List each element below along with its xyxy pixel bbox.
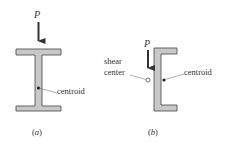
centroid-label-b: centroid [184, 67, 213, 77]
panel-label-b: (b) [148, 127, 158, 137]
centroid-dot-b [162, 78, 165, 81]
panel-b: P shear center centroid (b) [104, 38, 213, 137]
panel-a: P centroid (a) [16, 9, 86, 137]
i-beam-section [16, 49, 61, 111]
shear-center-diagram: P centroid (a) P shear center centroid (… [0, 0, 230, 150]
shear-center-marker [146, 78, 150, 82]
centroid-leader-b [165, 74, 184, 80]
load-label-b: P [143, 38, 150, 49]
shear-center-label-line2: center [104, 67, 125, 77]
shear-center-leader [130, 75, 146, 80]
load-label-a: P [33, 9, 40, 20]
shear-center-label-line1: shear [104, 56, 122, 66]
panel-label-a: (a) [32, 127, 42, 137]
centroid-label-a: centroid [57, 86, 86, 96]
